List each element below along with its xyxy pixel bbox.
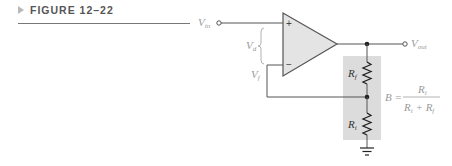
input-label: Vin	[198, 16, 211, 30]
vd-brace	[258, 28, 264, 64]
output-terminal[interactable]	[403, 42, 407, 46]
circuit-diagram: + − Vin Vd Vf Vout Rf Ri B = Ri Ri + Rf	[0, 0, 452, 166]
minus-sign: −	[286, 59, 292, 70]
vd-label: Vd	[246, 39, 257, 53]
plus-sign: +	[286, 18, 292, 29]
input-terminal[interactable]	[217, 21, 221, 25]
vf-label: Vf	[251, 68, 261, 82]
formula-lhs: B =	[385, 91, 402, 103]
ground-icon	[360, 148, 374, 155]
output-label: Vout	[411, 37, 428, 51]
formula-numerator: Ri	[417, 83, 427, 97]
formula-denominator: Ri + Rf	[403, 101, 435, 115]
